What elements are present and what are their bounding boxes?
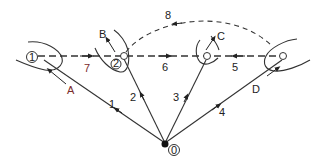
edge-8-arrow xyxy=(174,23,182,24)
node-D-hollow-circle xyxy=(280,53,287,60)
lobe-node-D xyxy=(264,39,310,71)
node-2-hollow-circle xyxy=(121,53,128,60)
direction-B-label: B xyxy=(99,28,106,40)
direction-B-arrow xyxy=(107,39,115,52)
node-1-label: 1 xyxy=(29,51,35,63)
edge-1-label: 1 xyxy=(109,98,115,110)
edge-2-label: 2 xyxy=(130,91,136,103)
edge-2-arrow xyxy=(141,94,144,100)
direction-A-arrow xyxy=(49,70,66,84)
edge-1 xyxy=(44,60,165,143)
edge-3-label: 3 xyxy=(173,91,179,103)
edge-4-label: 4 xyxy=(219,106,225,118)
direction-D-label: D xyxy=(252,83,260,95)
edge-8-arc xyxy=(126,21,272,52)
direction-A-label: A xyxy=(67,84,75,96)
node-C-hollow-circle xyxy=(204,53,211,60)
edge-5-label: 5 xyxy=(232,61,238,73)
edge-6-label: 6 xyxy=(162,61,168,73)
edge-4-arrow xyxy=(212,105,219,110)
node-2-label: 2 xyxy=(113,57,119,69)
direction-C-label: C xyxy=(217,30,225,42)
edge-4 xyxy=(165,60,282,143)
diagram-canvas: 0 1 2 1 2 3 4 7 6 5 8 A B C D xyxy=(0,0,320,168)
edge-8-label: 8 xyxy=(165,9,171,21)
origin-label: 0 xyxy=(171,144,177,156)
edge-3 xyxy=(165,60,206,143)
edge-7-label: 7 xyxy=(84,62,90,74)
edge-1-arrow xyxy=(116,109,122,113)
origin-dot xyxy=(162,141,169,148)
direction-C-arrow xyxy=(206,38,214,50)
